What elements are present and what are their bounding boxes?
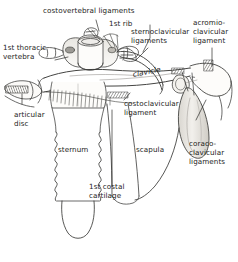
anatomical-figure: costovertebral ligaments 1st rib sternoc… [0, 0, 238, 262]
sternum [51, 82, 107, 238]
label-first-rib: 1st rib [109, 20, 132, 28]
label-first-thoracic-vertebra-line2: vertebra [3, 53, 34, 61]
label-sternum: sternum [58, 146, 88, 154]
label-costovertebral-ligaments: costovertebral ligaments [43, 7, 135, 15]
acromioclavicular-ligament [172, 68, 184, 74]
label-scapula: scapula [136, 146, 164, 154]
articular-disc [5, 80, 42, 107]
bone-outlines [5, 28, 232, 238]
scapula [135, 60, 232, 200]
label-costoclavicular-ligament-line2: ligament [124, 109, 156, 117]
label-articular-disc-line2: disc [14, 120, 29, 128]
label-sternoclavicular-ligaments-line2: ligaments [131, 37, 167, 45]
first-thoracic-vertebra [39, 28, 138, 70]
label-first-costal-cartilage-line2: cartilage [89, 192, 121, 200]
label-coracoclavicular-ligaments-line3: ligaments [189, 158, 225, 166]
label-acromioclavicular-ligament-line3: ligament [193, 37, 225, 45]
